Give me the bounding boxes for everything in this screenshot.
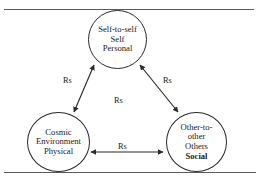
edge-cosmic-self: [74, 65, 94, 112]
other-node-line-4: Social: [186, 152, 208, 162]
edge-label-center: Rs: [113, 96, 124, 105]
other-node: Other-to- other Others Social: [166, 112, 227, 172]
edge-label-left: Rs: [62, 76, 73, 85]
self-node: Self-to-self Self Personal: [88, 10, 147, 69]
cosmic-node: Cosmic Environment Physical: [27, 112, 90, 172]
relationship-triangle-figure: Self-to-self Self Personal Cosmic Enviro…: [0, 0, 263, 185]
self-node-line-3: Personal: [103, 44, 133, 54]
edge-self-other: [140, 65, 178, 112]
cosmic-node-line-3: Physical: [44, 147, 73, 157]
edge-label-right: Rs: [162, 76, 173, 85]
edge-label-bottom: Rs: [117, 142, 128, 151]
